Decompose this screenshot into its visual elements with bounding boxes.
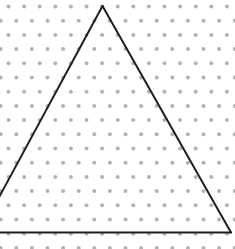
grid-dot	[170, 104, 174, 108]
grid-dot	[116, 90, 120, 94]
grid-dot	[116, 5, 120, 9]
grid-dot	[30, 47, 34, 51]
grid-dot	[69, 118, 73, 122]
grid-dot	[186, 47, 190, 51]
grid-dot	[217, 218, 221, 222]
grid-dot	[147, 61, 151, 65]
grid-dot	[61, 19, 65, 23]
grid-dot	[209, 90, 213, 94]
grid-dot	[46, 218, 50, 222]
grid-dot	[131, 90, 135, 94]
grid-dot	[124, 76, 128, 80]
grid-dot	[194, 61, 198, 65]
grid-dot	[163, 175, 167, 179]
grid-dot	[69, 5, 73, 9]
grid-dot	[116, 203, 120, 207]
grid-dot	[217, 19, 221, 23]
grid-dot	[100, 175, 104, 179]
grid-dot	[92, 76, 96, 80]
grid-dot	[155, 132, 159, 136]
grid-dot	[225, 203, 229, 207]
grid-dot	[124, 104, 128, 108]
grid-dot	[30, 218, 34, 222]
grid-dot	[30, 76, 34, 80]
grid-dot	[178, 175, 182, 179]
grid-dot	[209, 118, 213, 122]
grid-dot	[22, 5, 26, 9]
grid-dot	[131, 33, 135, 37]
grid-dot	[147, 147, 151, 151]
grid-dot	[131, 5, 135, 9]
grid-dot	[14, 189, 18, 193]
grid-dot	[225, 147, 229, 151]
grid-dot	[202, 47, 206, 51]
grid-dot	[7, 5, 11, 9]
grid-dot	[155, 19, 159, 23]
grid-dot	[194, 175, 198, 179]
grid-dot	[108, 132, 112, 136]
grid-dot	[155, 161, 159, 165]
grid-dot	[209, 5, 213, 9]
grid-dot	[46, 19, 50, 23]
grid-dot	[139, 19, 143, 23]
grid-dot	[22, 61, 26, 65]
grid-dot	[163, 90, 167, 94]
grid-dot	[186, 19, 190, 23]
grid-dot	[194, 90, 198, 94]
grid-dot	[186, 189, 190, 193]
grid-dot	[92, 161, 96, 165]
grid-dot	[202, 19, 206, 23]
grid-dot	[131, 147, 135, 151]
grid-dot	[38, 175, 42, 179]
grid-dot	[194, 33, 198, 37]
grid-dot	[46, 76, 50, 80]
grid-dot	[7, 33, 11, 37]
grid-dot	[147, 175, 151, 179]
grid-dot	[124, 161, 128, 165]
grid-dot	[85, 61, 89, 65]
grid-dot	[14, 218, 18, 222]
grid-dot	[163, 147, 167, 151]
grid-dot	[217, 161, 221, 165]
grid-dot	[147, 5, 151, 9]
grid-dot	[92, 47, 96, 51]
grid-dot	[108, 218, 112, 222]
grid-dot	[85, 90, 89, 94]
grid-dot	[92, 132, 96, 136]
grid-dot	[92, 104, 96, 108]
grid-dot	[178, 118, 182, 122]
grid-dot	[139, 189, 143, 193]
grid-dot	[7, 203, 11, 207]
grid-dot	[202, 189, 206, 193]
grid-dot	[155, 47, 159, 51]
grid-dot	[7, 90, 11, 94]
grid-dot	[209, 147, 213, 151]
grid-dot	[155, 76, 159, 80]
grid-dot	[22, 90, 26, 94]
grid-dot	[225, 5, 229, 9]
grid-dot	[77, 189, 81, 193]
grid-dot	[131, 118, 135, 122]
grid-dot	[155, 189, 159, 193]
grid-dot	[100, 203, 104, 207]
grid-dot	[22, 175, 26, 179]
grid-dot	[85, 175, 89, 179]
grid-dot	[209, 33, 213, 37]
grid-dot	[178, 61, 182, 65]
grid-dot	[38, 33, 42, 37]
grid-dot	[100, 118, 104, 122]
grid-dot	[163, 203, 167, 207]
grid-dot	[14, 76, 18, 80]
grid-dot	[22, 33, 26, 37]
grid-dot	[209, 61, 213, 65]
grid-dot	[155, 218, 159, 222]
grid-dot	[170, 19, 174, 23]
grid-dot	[69, 33, 73, 37]
grid-dot	[22, 203, 26, 207]
isometric-dot-diagram	[0, 0, 235, 249]
grid-dot	[46, 189, 50, 193]
grid-dot	[7, 118, 11, 122]
grid-dot	[108, 189, 112, 193]
grid-dot	[77, 161, 81, 165]
grid-dot	[38, 90, 42, 94]
